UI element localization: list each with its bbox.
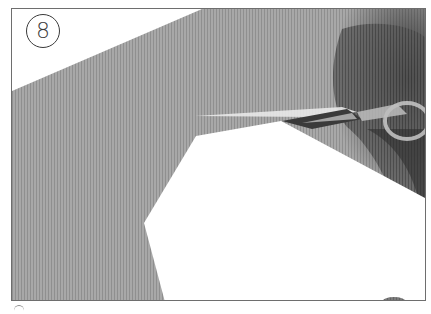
step-illustration-frame: 8 bbox=[11, 8, 426, 301]
scissors-cutting-paper-photo bbox=[12, 9, 426, 301]
step-number: 8 bbox=[36, 20, 50, 42]
step-number-badge: 8 bbox=[26, 14, 60, 48]
next-step-badge-partial bbox=[14, 305, 24, 314]
